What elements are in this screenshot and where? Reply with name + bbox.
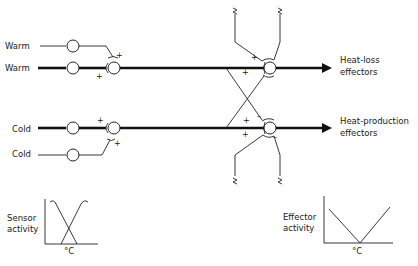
plus-sign: +: [242, 130, 249, 139]
plus-sign: +: [114, 139, 121, 148]
thermoregulation-diagram: Warm Warm Cold Cold + + + +: [0, 0, 418, 266]
effector-activity-chart: Effector activity °C: [283, 196, 393, 256]
resistor-squiggle-icon: [278, 178, 282, 184]
plus-sign: +: [96, 72, 103, 81]
modulator-line-bottom-right: [274, 136, 280, 176]
modulator-line-top-right: [274, 14, 280, 60]
minus-sign: –: [257, 112, 261, 121]
input-label-warm-2: Warm: [5, 63, 30, 73]
cold-sensor-node-1: [67, 122, 79, 134]
chart-ylabel: Effector: [283, 212, 317, 222]
modulator-line-top-left: [235, 14, 262, 61]
plus-sign: +: [97, 116, 104, 125]
output-label-heat-production-1: Heat-production: [340, 116, 409, 126]
warm-sensor-curve: [61, 201, 88, 244]
warm-interneuron-node: [108, 62, 120, 74]
plus-sign: +: [242, 68, 249, 77]
chart-axes: [324, 196, 393, 243]
warm-sensor-thick-pathway: [38, 62, 276, 74]
resistor-squiggle-icon: [233, 8, 237, 14]
cold-sensor-node-2: [67, 149, 79, 161]
effector-activity-curve: [329, 207, 390, 243]
input-label-cold-2: Cold: [12, 149, 31, 159]
plus-sign: +: [243, 116, 250, 125]
chart-axes: [45, 199, 98, 244]
sensor-activity-chart: Sensor activity °C: [7, 199, 98, 256]
warm-sensor-node-2: [67, 62, 79, 74]
chart-ylabel: activity: [283, 223, 314, 233]
plus-sign: +: [116, 51, 123, 60]
output-label-heat-loss-1: Heat-loss: [340, 55, 380, 65]
output-label-heat-production-2: effectors: [340, 128, 378, 138]
heat-loss-motor-node: [262, 59, 332, 78]
input-label-warm-1: Warm: [5, 41, 30, 51]
chart-xlabel: °C: [352, 246, 362, 256]
cold-sensor-thin-pathway: [38, 139, 115, 161]
modulator-line-bottom-left: [235, 135, 263, 176]
arrow-head-icon: [322, 63, 332, 73]
cold-sensor-curve: [50, 201, 77, 244]
chart-xlabel: °C: [64, 246, 74, 256]
chart-ylabel: activity: [7, 224, 38, 234]
chart-ylabel: Sensor: [7, 213, 37, 223]
cold-sensor-thick-pathway: [38, 122, 276, 134]
warm-sensor-thin-pathway: [40, 40, 118, 58]
warm-sensor-node-1: [67, 40, 79, 52]
input-label-cold-1: Cold: [12, 124, 31, 134]
resistor-squiggle-icon: [278, 8, 282, 14]
arrow-head-icon: [322, 123, 332, 133]
cold-interneuron-node: [108, 122, 120, 134]
output-label-heat-loss-2: effectors: [340, 67, 378, 77]
resistor-squiggle-icon: [233, 178, 237, 184]
